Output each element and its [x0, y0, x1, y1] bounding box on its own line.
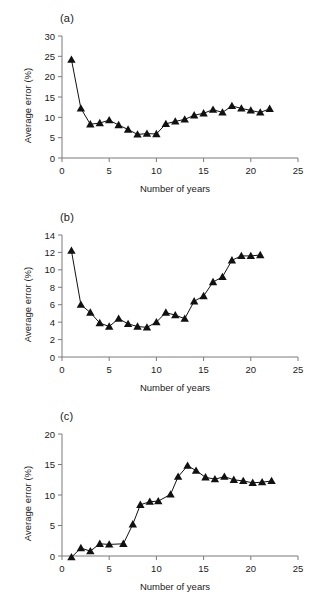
- panel-b-data-marker: [86, 308, 94, 315]
- panel-b-y-tick-label: 2: [50, 334, 55, 345]
- panel-c-data-marker: [96, 540, 104, 547]
- panel-c-x-tick-label: 25: [293, 563, 304, 574]
- panel-a-data-marker: [209, 105, 217, 112]
- panel-c-data-marker: [166, 490, 174, 497]
- panel-a-data-marker: [228, 102, 236, 109]
- panel-b-data-marker: [228, 256, 236, 263]
- panel-a-data-marker: [77, 104, 85, 111]
- panel-c-y-tick-label: 15: [44, 459, 55, 470]
- panel-c-data-marker: [119, 540, 127, 547]
- panel-c-data-marker: [129, 520, 137, 527]
- panel-b-y-tick-label: 6: [50, 299, 55, 310]
- panel-a-y-tick-label: 25: [44, 51, 55, 62]
- panel-c-x-tick-label: 20: [246, 563, 257, 574]
- panel-b-data-marker: [237, 252, 245, 259]
- panel-a-data-marker: [181, 115, 189, 122]
- panel-a-x-tick-label: 20: [246, 165, 257, 176]
- panel-a-y-tick-label: 20: [44, 71, 55, 82]
- panel-a-data-marker: [67, 55, 75, 62]
- panel-b-x-tick-label: 20: [246, 364, 257, 375]
- panel-c-data-marker: [220, 473, 228, 480]
- panel-a-data-marker: [143, 129, 151, 136]
- panel-b-y-tick-label: 8: [50, 282, 55, 293]
- panel-c-data-marker: [154, 497, 162, 504]
- panel-b-data-marker: [124, 320, 132, 327]
- panel-b-data-marker: [218, 273, 226, 280]
- panel-a-y-tick-label: 30: [44, 31, 55, 42]
- panel-a-data-marker: [199, 109, 207, 116]
- panel-b-y-tick-label: 10: [44, 264, 55, 275]
- panel-b-y-tick-label: 4: [50, 317, 55, 328]
- panel-b-data-marker: [209, 278, 217, 285]
- panel-b-y-tick-label: 14: [44, 230, 55, 241]
- panel-b-x-tick-label: 25: [293, 364, 304, 375]
- panel-a-y-tick-label: 0: [50, 153, 55, 164]
- panel-b-x-tick-label: 10: [151, 364, 162, 375]
- panel-a-y-tick-label: 15: [44, 92, 55, 103]
- panel-b-data-marker: [105, 322, 113, 329]
- panel-a: (a) Average error (%) Number of years 05…: [0, 0, 316, 199]
- panel-a-y-tick-label: 5: [50, 132, 55, 143]
- panel-b-x-tick-label: 0: [59, 364, 64, 375]
- panel-a-x-tick-label: 25: [293, 165, 304, 176]
- panel-a-y-tick-label: 10: [44, 112, 55, 123]
- panel-a-data-marker: [124, 125, 132, 132]
- panel-c-x-tick-label: 5: [107, 563, 112, 574]
- panel-c-y-tick-label: 20: [44, 429, 55, 440]
- panel-b-x-tick-label: 15: [198, 364, 209, 375]
- panel-c-data-marker: [77, 544, 85, 551]
- panel-b-x-tick-label: 5: [107, 364, 112, 375]
- panel-a-x-tick-label: 0: [59, 165, 64, 176]
- panel-c-y-tick-label: 0: [50, 551, 55, 562]
- panel-b-y-tick-label: 12: [44, 247, 55, 258]
- panel-c-y-tick-label: 10: [44, 490, 55, 501]
- panel-c: (c) Average error (%) Number of years 05…: [0, 398, 316, 597]
- panel-c-data-marker: [201, 473, 209, 480]
- panel-c-data-marker: [192, 466, 200, 473]
- panel-b-plot: 024681012140510152025: [0, 199, 316, 398]
- panel-a-x-tick-label: 5: [107, 165, 112, 176]
- panel-a-plot: 0510152025300510152025: [0, 0, 316, 199]
- panel-b-data-marker: [77, 301, 85, 308]
- panel-c-x-tick-label: 10: [151, 563, 162, 574]
- panel-b-data-marker: [190, 297, 198, 304]
- panel-c-x-tick-label: 15: [198, 563, 209, 574]
- panel-a-data-marker: [114, 121, 122, 128]
- panel-b-data-marker: [67, 246, 75, 253]
- figure-container: (a) Average error (%) Number of years 05…: [0, 0, 316, 598]
- panel-c-y-tick-label: 5: [50, 520, 55, 531]
- panel-a-data-marker: [105, 116, 113, 123]
- panel-c-x-tick-label: 0: [59, 563, 64, 574]
- panel-b-data-marker: [114, 314, 122, 321]
- panel-c-data-marker: [183, 462, 191, 469]
- panel-c-plot: 051015200510152025: [0, 398, 316, 597]
- panel-a-x-tick-label: 10: [151, 165, 162, 176]
- panel-b-data-marker: [162, 308, 170, 315]
- panel-a-data-marker: [265, 105, 273, 112]
- panel-b-y-tick-label: 0: [50, 352, 55, 363]
- panel-b-data-marker: [256, 251, 264, 258]
- panel-c-data-marker: [267, 477, 275, 484]
- panel-b: (b) Average error (%) Number of years 02…: [0, 199, 316, 398]
- panel-b-data-marker: [199, 292, 207, 299]
- panel-a-x-tick-label: 15: [198, 165, 209, 176]
- panel-b-data-marker: [181, 314, 189, 321]
